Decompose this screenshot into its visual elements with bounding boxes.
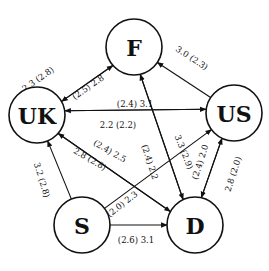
edge-label: 3.3 (2.9) <box>173 133 196 170</box>
edge-label: 2.2 (2.2) <box>100 120 136 130</box>
edge-label: (2.4) 3.1 <box>117 99 153 109</box>
node-label: US <box>216 101 251 127</box>
edge-label: (2.4) 2.2 <box>140 143 161 181</box>
node-label: D <box>185 213 204 239</box>
edge-us-to-uk <box>65 109 206 110</box>
node-label: F <box>126 35 142 61</box>
edge-label: 2.8 (2.0) <box>223 155 244 193</box>
node-f: F <box>106 19 162 75</box>
nodes-layer: FUSUKSD <box>9 19 262 253</box>
node-uk: UK <box>9 87 65 143</box>
node-us: US <box>206 85 262 141</box>
node-label: S <box>74 213 90 239</box>
node-s: S <box>54 197 110 253</box>
edge-label: (2.6) 3.1 <box>118 235 154 245</box>
node-d: D <box>167 197 223 253</box>
node-label: UK <box>18 103 57 129</box>
edge-label: (2.5) 2.8 <box>70 72 106 101</box>
edge-label: 3.0 (2.3) <box>174 44 210 72</box>
directed-graph: 2.3 (2.8)(2.5) 2.83.0 (2.3)(2.4) 3.12.2 … <box>0 0 269 271</box>
edge-label: 3.2 (2.8) <box>32 161 52 199</box>
